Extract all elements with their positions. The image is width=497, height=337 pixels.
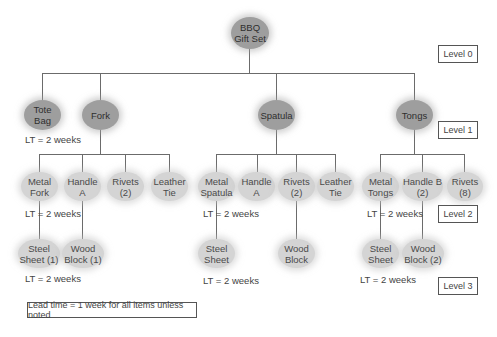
level-3-label: Level 3	[438, 277, 478, 295]
node-bbq-gift-set: BBQ Gift Set	[231, 17, 269, 49]
node-handle-b-tongs: Handle B (2)	[402, 172, 443, 201]
connector-tongs-metal-down	[380, 199, 381, 239]
connector-spatula	[276, 73, 277, 101]
connector-root-down	[249, 46, 250, 74]
lead-time-metal-tongs: LT = 2 weeks	[367, 208, 423, 219]
node-handle-a-fork: Handle A	[64, 172, 101, 201]
connector-spatula-rivets-down	[296, 199, 297, 239]
connector-fork-down	[100, 127, 101, 155]
node-handle-a-spatula: Handle A	[238, 172, 275, 201]
lead-time-metal-spatula: LT = 2 weeks	[203, 208, 259, 219]
node-metal-tongs: Metal Tongs	[362, 172, 399, 201]
connector-fork-c1	[39, 154, 40, 172]
node-leather-tie-fork: Leather Tie	[151, 172, 188, 201]
lead-time-steel-sheet-tongs: LT = 2 weeks	[360, 274, 416, 285]
connector-tongs-c3	[464, 154, 465, 172]
node-wood-block-spatula: Wood Block	[278, 239, 315, 268]
connector-spatula-metal-down	[216, 199, 217, 239]
node-wood-block-fork: Wood Block (1)	[62, 239, 104, 268]
connector-fork-handle-down	[82, 199, 83, 239]
connector-spatula-bar	[216, 154, 336, 155]
connector-fork-metal-down	[39, 199, 40, 239]
lead-time-steel-sheet-fork: LT = 2 weeks	[25, 273, 81, 284]
connector-tongs-c2	[422, 154, 423, 172]
connector-spatula-c4	[335, 154, 336, 172]
node-wood-block-tongs: Wood Block (2)	[402, 239, 444, 268]
connector-fork-bar	[39, 154, 170, 155]
connector-tongs-c1	[380, 154, 381, 172]
node-steel-sheet-tongs: Steel Sheet	[362, 239, 399, 268]
node-spatula: Spatula	[258, 100, 295, 130]
node-rivets-tongs: Rivets (8)	[447, 172, 483, 201]
node-metal-spatula: Metal Spatula	[198, 172, 235, 201]
connector-fork-c3	[125, 154, 126, 172]
lead-time-metal-fork: LT = 2 weeks	[25, 208, 81, 219]
connector-tongs	[414, 73, 415, 101]
connector-level1-bar	[42, 73, 415, 74]
connector-spatula-down	[276, 127, 277, 155]
node-metal-fork: Metal Fork	[21, 172, 58, 201]
level-1-label: Level 1	[438, 121, 478, 139]
level-2-label: Level 2	[438, 205, 478, 223]
node-tongs: Tongs	[396, 100, 433, 130]
node-rivets-fork: Rivets (2)	[107, 172, 144, 201]
connector-spatula-c3	[296, 154, 297, 172]
node-steel-sheet-fork: Steel Sheet (1)	[18, 239, 60, 268]
connector-fork	[100, 73, 101, 101]
node-rivets-spatula: Rivets (2)	[278, 172, 315, 201]
bom-diagram: BBQ Gift Set Tote Bag LT = 2 weeks Fork …	[0, 0, 497, 337]
node-leather-tie-spatula: Leather Tie	[317, 172, 354, 201]
connector-spatula-c1	[216, 154, 217, 172]
node-fork: Fork	[82, 100, 119, 130]
connector-fork-c4	[169, 154, 170, 172]
connector-tongs-down	[414, 127, 415, 155]
connector-tote	[42, 73, 43, 101]
connector-spatula-c2	[257, 154, 258, 172]
lead-time-tote-bag: LT = 2 weeks	[25, 134, 81, 145]
connector-fork-c2	[82, 154, 83, 172]
lead-time-steel-sheet-spatula: LT = 2 weeks	[203, 275, 259, 286]
lead-time-note: Lead time = 1 week for all items unless …	[27, 302, 197, 318]
connector-tongs-handle-down	[422, 199, 423, 239]
level-0-label: Level 0	[438, 45, 478, 63]
node-tote-bag: Tote Bag	[24, 100, 61, 130]
node-steel-sheet-spatula: Steel Sheet	[198, 239, 235, 268]
